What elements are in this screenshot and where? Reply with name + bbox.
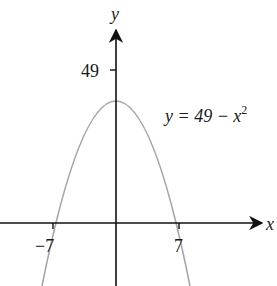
x-axis-label: x bbox=[265, 214, 274, 234]
tick-label-49: 49 bbox=[81, 61, 99, 81]
equation-label: y = 49 − x2 bbox=[163, 103, 247, 126]
tick-label-neg7: −7 bbox=[35, 236, 54, 256]
y-axis-label: y bbox=[109, 4, 119, 24]
parabola-chart: y x 49 −7 7 y = 49 − x2 bbox=[0, 0, 277, 286]
tick-label-7: 7 bbox=[174, 236, 183, 256]
